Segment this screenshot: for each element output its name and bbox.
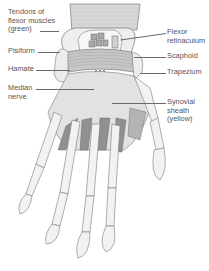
flexor-retinaculum-band [66,49,134,72]
leader-line-tendons [40,31,59,32]
label-synovial-sheath: Synovial sheath (yellow) [167,98,195,124]
leader-line-pisiform [38,52,60,53]
leader-line-median-nerve [36,89,94,90]
label-scaphoid: Scaphoid [167,52,198,61]
label-median-nerve: Median nerve [8,84,32,101]
leader-line-trapezium [140,73,166,74]
label-pisiform: Pisiform [8,47,35,56]
label-tendons-of-flexor-muscles: Tendons of flexor muscles (green) [8,8,55,34]
label-flexor-retinaculum: Flexor retinaculum [167,28,205,45]
label-hamate: Hamate [8,65,34,74]
label-trapezium: Trapezium [167,68,202,77]
leader-line-synovial-sheath [112,103,166,104]
leader-line-hamate [36,70,70,71]
leader-line-scaphoid [134,57,166,58]
